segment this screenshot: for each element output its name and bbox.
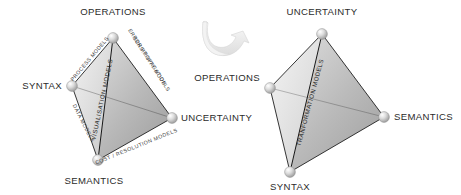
node-uncertainty-icon bbox=[317, 29, 328, 40]
right-vertex-label-operations: OPERATIONS bbox=[194, 72, 260, 83]
right-tetrahedron: UNCERTAINTY OPERATIONS SEMANTICS SYNTAX … bbox=[194, 6, 453, 192]
node-operations-icon bbox=[108, 33, 119, 44]
left-vertex-label-operations: OPERATIONS bbox=[80, 6, 146, 17]
node-operations-icon bbox=[265, 83, 276, 94]
node-uncertainty-icon bbox=[167, 113, 178, 124]
left-vertex-label-semantics: SEMANTICS bbox=[64, 175, 123, 186]
left-vertex-label-uncertainty: UNCERTAINTY bbox=[181, 112, 252, 123]
tetrahedron-figure: OPERATIONS SYNTAX UNCERTAINTY SEMANTICS … bbox=[0, 0, 461, 195]
curved-transition-arrow-icon bbox=[203, 21, 249, 55]
left-vertex-label-syntax: SYNTAX bbox=[22, 80, 62, 91]
node-syntax-icon bbox=[67, 81, 78, 92]
node-syntax-icon bbox=[285, 167, 296, 178]
left-tetrahedron: OPERATIONS SYNTAX UNCERTAINTY SEMANTICS … bbox=[22, 6, 252, 186]
node-semantics-icon bbox=[379, 112, 390, 123]
right-vertex-label-syntax: SYNTAX bbox=[270, 181, 310, 192]
right-vertex-label-uncertainty: UNCERTAINTY bbox=[286, 6, 357, 17]
right-vertex-label-semantics: SEMANTICS bbox=[394, 111, 453, 122]
